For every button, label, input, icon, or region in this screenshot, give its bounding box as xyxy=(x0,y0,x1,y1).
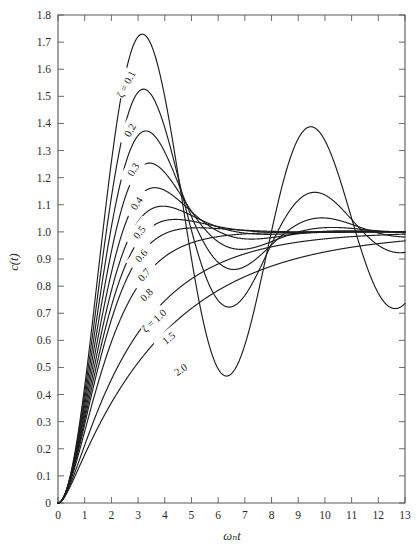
y-tick-label: 0.5 xyxy=(37,361,52,373)
y-tick-label: 1.6 xyxy=(37,63,52,75)
y-tick-label: 1.1 xyxy=(37,199,52,211)
y-tick-label: 1.5 xyxy=(37,90,52,102)
figure-container: 012345678910111213 00.10.20.30.40.50.60.… xyxy=(0,0,420,560)
x-tick-label: 13 xyxy=(399,509,411,521)
x-axis-title: ωₙt xyxy=(223,529,241,543)
x-tick-label: 7 xyxy=(242,509,248,521)
x-tick-label: 12 xyxy=(373,509,385,521)
x-tick-label: 6 xyxy=(215,509,221,521)
x-tick-label: 5 xyxy=(189,509,195,521)
y-tick-label: 0.1 xyxy=(37,470,52,482)
x-tick-label: 0 xyxy=(55,509,61,521)
x-tick-label: 4 xyxy=(162,509,168,521)
x-tick-label: 9 xyxy=(295,509,301,521)
y-tick-label: 0.8 xyxy=(37,280,52,292)
y-tick-label: 0.3 xyxy=(37,416,52,428)
y-tick-label: 1.4 xyxy=(37,117,52,129)
y-tick-label: 1.0 xyxy=(37,226,52,238)
y-tick-label: 1.8 xyxy=(37,9,52,21)
y-tick-label: 0.7 xyxy=(37,307,52,319)
y-tick-label: 0 xyxy=(45,497,51,509)
x-tick-label: 8 xyxy=(269,509,275,521)
y-tick-label: 1.3 xyxy=(37,145,52,157)
y-tick-label: 1.2 xyxy=(37,172,52,184)
y-tick-label: 0.4 xyxy=(37,389,52,401)
x-tick-label: 10 xyxy=(319,509,331,521)
y-tick-label: 0.2 xyxy=(37,443,52,455)
x-tick-label: 2 xyxy=(109,509,115,521)
x-tick-label: 3 xyxy=(135,509,141,521)
y-axis-title: c(t) xyxy=(7,253,21,270)
y-tick-label: 0.6 xyxy=(37,334,52,346)
x-tick-label: 1 xyxy=(82,509,88,521)
step-response-chart: 012345678910111213 00.10.20.30.40.50.60.… xyxy=(0,0,420,560)
x-tick-label: 11 xyxy=(346,509,357,521)
y-tick-label: 0.9 xyxy=(37,253,52,265)
y-tick-label: 1.7 xyxy=(37,36,52,48)
